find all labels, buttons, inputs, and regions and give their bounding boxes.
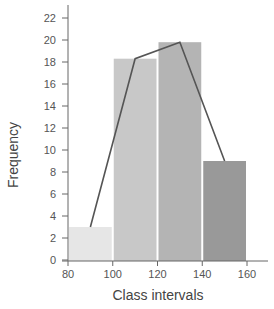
histogram-bars: [69, 42, 246, 261]
histogram-chart: 0246810121416182022 80100120140160 Frequ…: [0, 0, 274, 309]
y-tick-label: 16: [44, 78, 56, 90]
x-tick-label: 80: [62, 268, 74, 280]
y-tick-label: 6: [50, 188, 56, 200]
y-tick-label: 8: [50, 166, 56, 178]
y-tick-label: 14: [44, 100, 56, 112]
y-tick-label: 0: [50, 254, 56, 266]
x-tick-label: 140: [193, 268, 211, 280]
y-axis-ticks: 0246810121416182022: [44, 12, 68, 266]
histogram-bar: [203, 161, 246, 261]
x-tick-label: 100: [104, 268, 122, 280]
y-tick-label: 12: [44, 122, 56, 134]
y-tick-label: 10: [44, 144, 56, 156]
histogram-bar: [69, 227, 112, 261]
y-axis-label: Frequency: [5, 122, 21, 188]
histogram-bar: [114, 59, 157, 261]
x-tick-label: 120: [148, 268, 166, 280]
y-tick-label: 18: [44, 56, 56, 68]
x-axis-label: Class intervals: [112, 287, 203, 303]
y-tick-label: 22: [44, 12, 56, 24]
y-tick-label: 4: [50, 210, 56, 222]
x-tick-label: 160: [238, 268, 256, 280]
x-axis-ticks: 80100120140160: [62, 261, 256, 280]
y-tick-label: 20: [44, 34, 56, 46]
histogram-bar: [159, 42, 202, 261]
y-tick-label: 2: [50, 232, 56, 244]
